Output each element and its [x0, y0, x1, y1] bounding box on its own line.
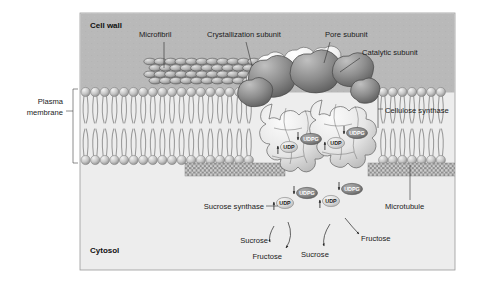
label-crystallization-subunit: Crystallization subunit	[207, 30, 282, 39]
lipid-head	[177, 87, 186, 96]
lipid-head	[215, 87, 224, 96]
lipid-head	[158, 155, 167, 164]
molecule-udp: UDP	[276, 197, 293, 208]
lipid-head	[129, 87, 138, 96]
lipid-head	[81, 87, 90, 96]
lipid-head	[436, 87, 445, 96]
label-sucrose-left: Sucrose	[240, 236, 268, 245]
molecule-label: UDPG	[344, 186, 360, 192]
lipid-head	[427, 87, 436, 96]
lipid-head	[398, 87, 407, 96]
lipid-head	[225, 87, 234, 96]
lipid-head	[139, 87, 148, 96]
figure-canvas: UDPUDPGUDPUDPGUDPUDPGUDPUDPG Microfibril…	[0, 0, 489, 282]
molecule-label: UDP	[330, 140, 342, 146]
lipid-head	[388, 87, 397, 96]
lipid-head	[407, 87, 416, 96]
lipid-head	[81, 155, 90, 164]
molecule-udpg: UDPG	[297, 187, 318, 198]
lipid-head	[110, 87, 119, 96]
lipid-head	[417, 87, 426, 96]
label-microfibril: Microfibril	[139, 30, 172, 39]
label-cellulose-synthase: Cellulose synthase	[385, 106, 449, 115]
lipid-head	[167, 87, 176, 96]
lipid-head	[100, 87, 109, 96]
molecule-udpg: UDPG	[342, 183, 363, 194]
molecule-udp: UDP	[322, 195, 339, 206]
molecule-udp: UDP	[327, 137, 344, 148]
label-catalytic-subunit: Catalytic subunit	[362, 48, 419, 57]
lipid-head	[110, 155, 119, 164]
microtubule-band-left	[185, 163, 285, 176]
label-fructose-right: Fructose	[361, 234, 391, 243]
region-label-cytosol: Cytosol	[90, 246, 119, 255]
label-sucrose-synthase: Sucrose synthase	[204, 202, 264, 211]
lipid-head	[91, 87, 100, 96]
lipid-head	[196, 87, 205, 96]
label-plasma-membrane-line2: membrane	[27, 108, 63, 117]
lipid-head	[91, 155, 100, 164]
lipid-head	[139, 155, 148, 164]
lipid-head	[129, 155, 138, 164]
molecule-label: UDP	[283, 144, 295, 150]
molecule-label: UDP	[279, 200, 291, 206]
plasma-membrane-bracket	[66, 89, 78, 163]
label-fructose-left: Fructose	[252, 252, 282, 261]
lipid-head	[167, 155, 176, 164]
lipid-head	[100, 155, 109, 164]
molecule-label: UDPG	[349, 130, 365, 136]
molecule-udpg: UDPG	[301, 133, 322, 144]
lipid-head	[158, 87, 167, 96]
molecule-label: UDP	[325, 198, 337, 204]
microtubule-band-right	[368, 163, 455, 176]
lipid-head	[187, 87, 196, 96]
lipid-head	[148, 155, 157, 164]
lipid-head	[206, 87, 215, 96]
label-microtubule: Microtubule	[385, 202, 424, 211]
cellulose-synthase-diagram: UDPUDPGUDPUDPGUDPUDPGUDPUDPG Microfibril…	[0, 0, 489, 282]
molecule-label: UDPG	[299, 190, 315, 196]
label-pore-subunit: Pore subunit	[325, 30, 369, 39]
molecule-udpg: UDPG	[347, 127, 368, 138]
label-sucrose-right: Sucrose	[301, 250, 329, 259]
lipid-head	[119, 87, 128, 96]
lipid-head	[119, 155, 128, 164]
region-label-cell-wall: Cell wall	[90, 21, 122, 30]
lipid-head	[148, 87, 157, 96]
molecule-label: UDPG	[303, 136, 319, 142]
molecule-udp: UDP	[280, 141, 297, 152]
label-plasma-membrane-line1: Plasma	[38, 97, 64, 106]
